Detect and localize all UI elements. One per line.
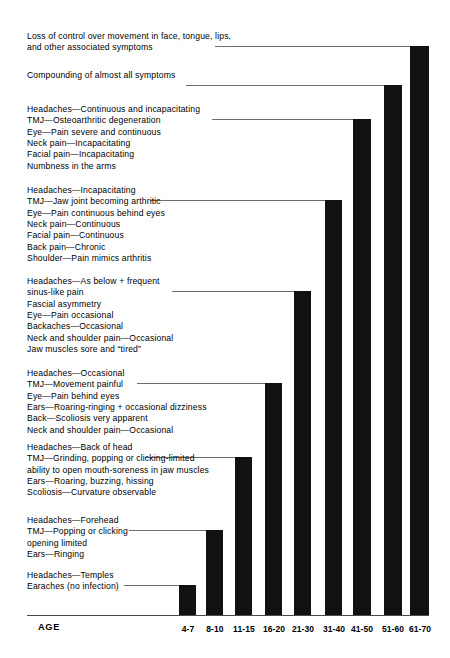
symptom-line: ability to open mouth-soreness in jaw mu…	[27, 465, 427, 476]
symptom-line: Back pain—Chronic	[27, 242, 427, 253]
stage-block-4-7: Headaches—Temples Earaches (no infection…	[27, 570, 427, 593]
symptom-line: Jaw muscles sore and “tired”	[27, 344, 427, 355]
axis-tick-61-70: 61-70	[403, 624, 437, 634]
symptom-line: Fascial asymmetry	[27, 299, 427, 310]
symptom-line: TMJ—Movement painful	[27, 379, 427, 390]
symptom-line: Headaches—As below + frequent	[27, 276, 427, 287]
symptom-line: Ears—Roaring, buzzing, hissing	[27, 476, 427, 487]
symptom-line: Eye—Pain occasional	[27, 310, 427, 321]
symptom-line: Headaches—Continuous and incapacitating	[27, 104, 427, 115]
stage-block-31-40: Headaches—Incapacitating TMJ—Jaw joint b…	[27, 185, 427, 264]
symptom-line: Eye—Pain severe and continuous	[27, 127, 427, 138]
symptom-progression-chart: ... Loss of control over movement in fac…	[0, 0, 450, 658]
symptom-line: Ears—Ringing	[27, 549, 427, 560]
symptom-line: Neck and shoulder pain—Occasional	[27, 425, 427, 436]
symptom-line: TMJ—Osteoarthritic degeneration	[27, 115, 427, 126]
symptom-line: Backaches—Occasional	[27, 321, 427, 332]
axis-title-age: AGE	[38, 622, 60, 632]
symptom-line: Shoulder—Pain mimics arthritis	[27, 253, 427, 264]
leader-line-51-60	[186, 85, 384, 86]
axis-tick-21-30: 21-30	[286, 624, 320, 634]
symptom-line: Eye—Pain continuous behind eyes	[27, 208, 427, 219]
symptom-line: Neck pain—Continuous	[27, 219, 427, 230]
symptom-line: Facial pain—Continuous	[27, 230, 427, 241]
stage-block-11-15: Headaches—Back of head TMJ—Grinding, pop…	[27, 442, 427, 499]
stage-block-8-10: Headaches—Forehead TMJ—Popping or clicki…	[27, 515, 427, 560]
symptom-line: Ears—Roaring-ringing + occasional dizzin…	[27, 402, 427, 413]
symptom-line: Headaches—Incapacitating	[27, 185, 427, 196]
symptom-line: Headaches—Back of head	[27, 442, 427, 453]
symptom-line: Facial pain—Incapacitating	[27, 149, 427, 160]
symptom-line: Numbness in the arms	[27, 161, 427, 172]
symptom-line: Earaches (no infection)	[27, 581, 427, 592]
symptom-line: sinus-like pain	[27, 287, 427, 298]
axis-baseline	[27, 615, 429, 616]
symptom-line: Eye—Pain behind eyes	[27, 391, 427, 402]
stage-block-51-60: Compounding of almost all symptoms	[27, 70, 427, 81]
stage-block-16-20: Headaches—Occasional TMJ—Movement painfu…	[27, 368, 427, 436]
stage-block-61-70: Loss of control over movement in face, t…	[27, 31, 427, 54]
symptom-line: TMJ—Popping or clicking	[27, 526, 427, 537]
symptom-line: TMJ—Jaw joint becoming arthritic	[27, 196, 427, 207]
symptom-line: Scoliosis—Curvature observable	[27, 487, 427, 498]
symptom-line: Back—Scoliosis very apparent	[27, 413, 427, 424]
symptom-line: Neck pain—Incapacitating	[27, 138, 427, 149]
axis-tick-41-50: 41-50	[345, 624, 379, 634]
symptom-line: Headaches—Forehead	[27, 515, 427, 526]
symptom-line: Loss of control over movement in face, t…	[27, 31, 427, 42]
symptom-line: Neck and shoulder pain—Occasional	[27, 333, 427, 344]
symptom-line: TMJ—Grinding, popping or clicking-limite…	[27, 453, 427, 464]
symptom-line: and other associated symptoms	[27, 42, 427, 53]
symptom-line: Headaches—Occasional	[27, 368, 427, 379]
symptom-line: Compounding of almost all symptoms	[27, 70, 427, 81]
symptom-line: opening limited	[27, 538, 427, 549]
axis-tick-11-15: 11-15	[227, 624, 261, 634]
stage-block-21-30: Headaches—As below + frequent sinus-like…	[27, 276, 427, 355]
stage-block-41-50: Headaches—Continuous and incapacitating …	[27, 104, 427, 172]
symptom-line: Headaches—Temples	[27, 570, 427, 581]
